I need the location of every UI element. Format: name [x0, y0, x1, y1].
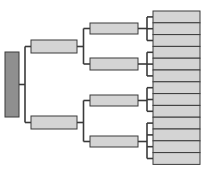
leaf-node — [153, 94, 200, 106]
leaf-node — [153, 23, 200, 35]
leaf-node — [153, 70, 200, 82]
level1-node — [31, 40, 77, 53]
leaf-node — [153, 82, 200, 94]
leaf-node — [153, 105, 200, 117]
leaf-node — [153, 153, 200, 165]
level1-node — [31, 116, 77, 129]
leaf-node — [153, 141, 200, 153]
tree-diagram — [0, 0, 210, 175]
leaf-node — [153, 35, 200, 47]
level2-node — [90, 23, 138, 34]
tree-nodes — [5, 11, 200, 164]
leaf-node — [153, 11, 200, 23]
leaf-node — [153, 129, 200, 141]
leaf-node — [153, 117, 200, 129]
level2-node — [90, 58, 138, 70]
leaf-node — [153, 46, 200, 58]
leaf-node — [153, 58, 200, 70]
level2-node — [90, 136, 138, 147]
level2-node — [90, 95, 138, 106]
root-node — [5, 52, 19, 117]
